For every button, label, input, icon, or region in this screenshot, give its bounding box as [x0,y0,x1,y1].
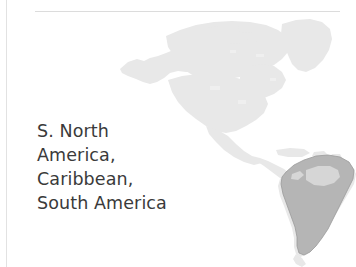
texture-fleck [270,78,276,81]
region-caption: S. North America, Caribbean, South Ameri… [37,119,187,215]
texture-fleck [210,86,220,90]
top-divider-rule [35,11,340,12]
region-map-figure: S. North America, Caribbean, South Ameri… [0,0,356,267]
greenland-shape [281,19,332,72]
texture-fleck [238,100,246,104]
caption-line-2: America, [37,143,187,167]
texture-fleck [230,50,236,53]
caption-line-4: South America [37,191,187,215]
caption-line-1: S. North [37,119,187,143]
texture-fleck [256,54,264,57]
left-edge-rule [6,0,7,267]
mexico-shape [206,126,262,165]
caption-line-3: Caribbean, [37,167,187,191]
